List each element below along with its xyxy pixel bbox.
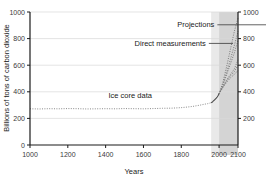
annotation-direct-measurements: Direct measurements [135, 39, 207, 48]
svg-text:600: 600 [243, 62, 255, 69]
svg-text:200: 200 [243, 115, 255, 122]
svg-text:1600: 1600 [136, 151, 152, 158]
shaded-band-direct-measurements [211, 12, 219, 145]
y-axis-tick-labels-right: 2004006008001000 [243, 9, 259, 122]
chart-svg: 02004006008001000 2004006008001000 10001… [0, 0, 270, 181]
x-axis-tick-labels: 1000120014001600180020002100 [22, 151, 246, 158]
svg-text:400: 400 [243, 88, 255, 95]
svg-text:800: 800 [13, 35, 25, 42]
co2-emissions-chart: 02004006008001000 2004006008001000 10001… [0, 0, 270, 181]
svg-text:1800: 1800 [173, 151, 189, 158]
svg-text:1400: 1400 [98, 151, 114, 158]
x-axis-title: Years [125, 167, 144, 176]
y-axis-tick-labels-left: 02004006008001000 [9, 9, 25, 149]
shaded-band-projections [219, 12, 238, 145]
svg-text:1000: 1000 [243, 9, 259, 16]
svg-text:600: 600 [13, 62, 25, 69]
svg-text:200: 200 [13, 115, 25, 122]
annotation-ice-core-data: Ice core data [109, 91, 153, 100]
svg-text:1000: 1000 [22, 151, 38, 158]
plot-background [30, 12, 238, 145]
svg-text:2100: 2100 [230, 151, 246, 158]
svg-text:2000: 2000 [211, 151, 227, 158]
svg-text:1000: 1000 [9, 9, 25, 16]
y-axis-title: Billions of tons of carbon dioxide [2, 24, 11, 132]
svg-text:0: 0 [21, 142, 25, 149]
svg-text:400: 400 [13, 88, 25, 95]
svg-text:800: 800 [243, 35, 255, 42]
svg-text:1200: 1200 [60, 151, 76, 158]
annotation-projections: Projections [177, 20, 214, 29]
